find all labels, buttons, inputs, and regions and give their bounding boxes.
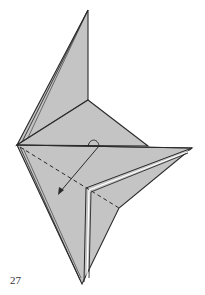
origami-diagram <box>0 0 205 295</box>
lower-body <box>17 145 192 284</box>
step-number: 27 <box>10 274 21 286</box>
